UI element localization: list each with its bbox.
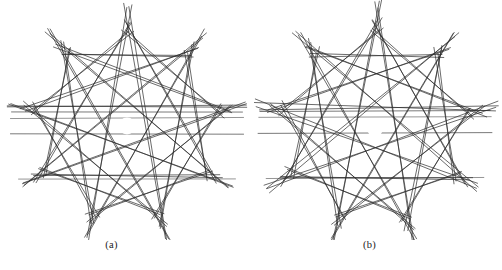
figure-panel-a: (a) xyxy=(0,0,251,270)
figure-plate: (a) (b) xyxy=(0,0,502,270)
panel-caption-a: (a) xyxy=(0,238,237,252)
star-polygon-diagram-b xyxy=(251,0,502,240)
figure-panel-b: (b) xyxy=(251,0,502,270)
star-polygon-diagram-a xyxy=(0,0,251,240)
panel-caption-b: (b) xyxy=(244,238,495,252)
